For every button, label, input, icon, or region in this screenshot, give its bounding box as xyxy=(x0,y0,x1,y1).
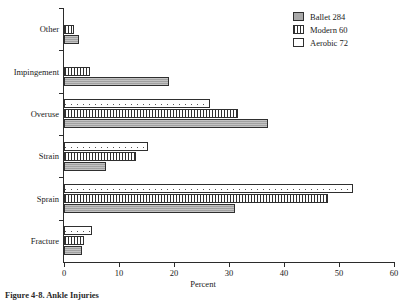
legend-item-ballet: Ballet 284 xyxy=(293,11,348,22)
bar-ballet-sprain xyxy=(64,204,235,213)
y-axis-category-label: Other xyxy=(40,24,59,34)
legend-item-modern: Modern 60 xyxy=(293,24,348,35)
y-axis-tick xyxy=(59,50,63,51)
y-axis-tick xyxy=(59,177,63,178)
x-axis-tick-label: 50 xyxy=(335,268,344,278)
x-axis-tick-label: 20 xyxy=(170,268,179,278)
bar-aerobic-fracture xyxy=(64,226,92,235)
dotted-swatch-icon xyxy=(293,38,304,47)
bar-ballet-overuse xyxy=(64,119,268,128)
x-axis-tick xyxy=(284,263,285,267)
bar-aerobic-overuse xyxy=(64,99,210,108)
legend-label-ballet: Ballet 284 xyxy=(310,12,345,22)
x-axis-tick xyxy=(394,263,395,267)
y-axis-tick xyxy=(59,220,63,221)
bar-aerobic-sprain xyxy=(64,184,353,193)
bar-aerobic-strain xyxy=(64,142,148,151)
bar-modern-overuse xyxy=(64,109,238,118)
x-axis-title: Percent xyxy=(0,279,406,289)
bar-ballet-strain xyxy=(64,162,106,171)
bar-ballet-fracture xyxy=(64,246,82,255)
x-axis-tick-label: 40 xyxy=(280,268,289,278)
x-axis-tick-label: 10 xyxy=(115,268,124,278)
x-axis-tick-label: 0 xyxy=(62,268,66,278)
bar-modern-strain xyxy=(64,152,136,161)
legend-item-aerobic: Aerobic 72 xyxy=(293,37,348,48)
figure-caption: Figure 4-8. Ankle Injuries xyxy=(5,290,99,300)
x-axis-tick xyxy=(119,263,120,267)
y-axis-tick xyxy=(59,8,63,9)
x-axis-tick xyxy=(229,263,230,267)
bar-modern-fracture xyxy=(64,236,84,245)
x-axis-tick xyxy=(339,263,340,267)
chart-legend: Ballet 284 Modern 60 Aerobic 72 xyxy=(293,11,348,48)
x-axis-tick xyxy=(64,263,65,267)
y-axis-category-label: Impingement xyxy=(14,67,59,77)
y-axis-tick xyxy=(59,135,63,136)
y-axis-category-label: Overuse xyxy=(31,109,59,119)
bar-modern-impingement xyxy=(64,67,90,76)
bar-modern-sprain xyxy=(64,194,328,203)
vertical-hatch-swatch-icon xyxy=(293,25,304,34)
y-axis-category-label: Strain xyxy=(39,151,59,161)
y-axis-category-label: Sprain xyxy=(37,194,59,204)
bar-ballet-other xyxy=(64,35,79,44)
legend-label-aerobic: Aerobic 72 xyxy=(310,38,348,48)
bar-modern-other xyxy=(64,25,74,34)
x-axis-tick xyxy=(174,263,175,267)
bar-ballet-impingement xyxy=(64,77,169,86)
y-axis-tick xyxy=(59,93,63,94)
y-axis-category-label: Fracture xyxy=(31,236,59,246)
solid-gray-swatch-icon xyxy=(293,12,304,21)
x-axis-tick-label: 30 xyxy=(225,268,234,278)
x-axis-tick-label: 60 xyxy=(390,268,399,278)
legend-label-modern: Modern 60 xyxy=(310,25,348,35)
